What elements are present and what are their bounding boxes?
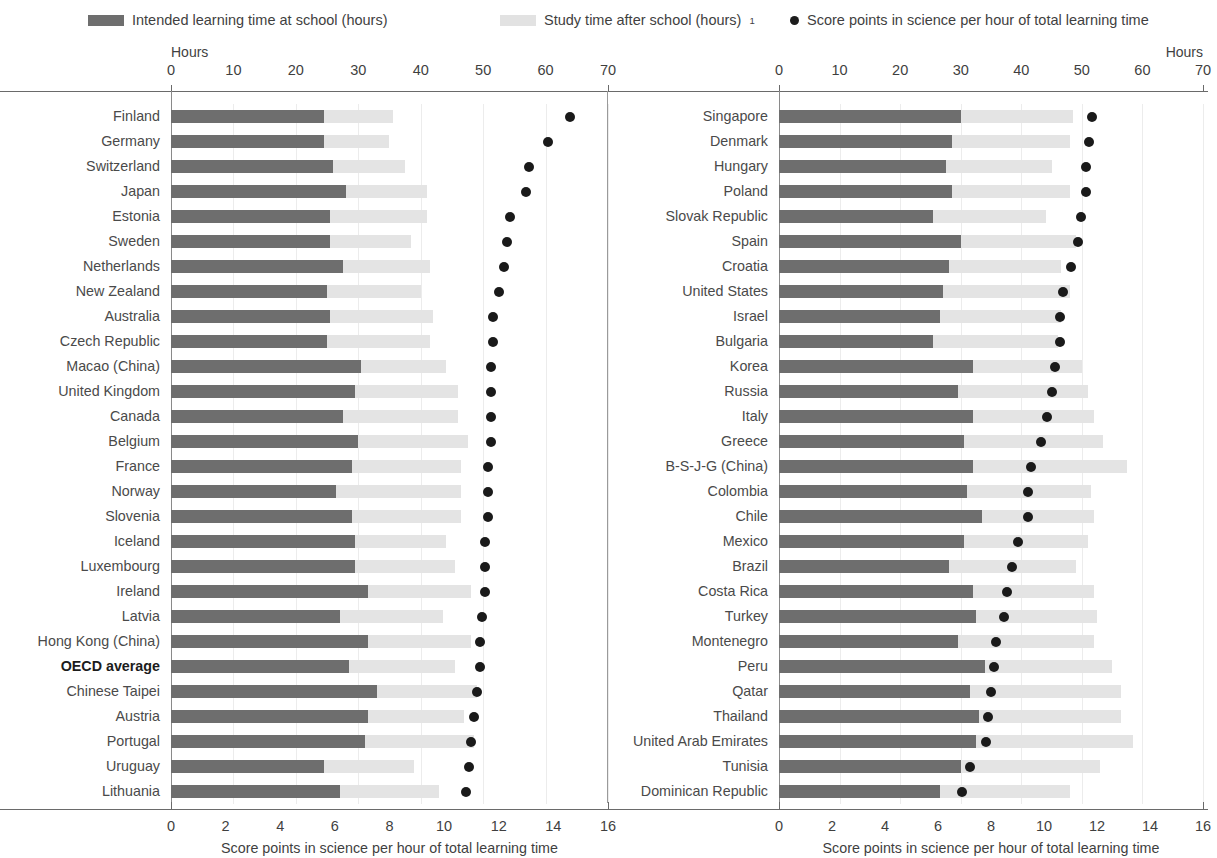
chart-row[interactable]: Macao (China) (0, 354, 608, 379)
chart-row[interactable]: Korea (608, 354, 1208, 379)
score-dot-marker (1026, 462, 1036, 472)
chart-row[interactable]: Colombia (608, 479, 1208, 504)
chart-row[interactable]: Thailand (608, 704, 1208, 729)
score-tick-label: 10 (1036, 818, 1052, 834)
score-dot-marker (499, 262, 509, 272)
chart-row[interactable]: Ireland (0, 579, 608, 604)
chart-row[interactable]: Dominican Republic (608, 779, 1208, 804)
chart-row[interactable]: Slovenia (0, 504, 608, 529)
chart-row[interactable]: Canada (0, 404, 608, 429)
score-dot-marker (543, 137, 553, 147)
chart-row[interactable]: Netherlands (0, 254, 608, 279)
category-label: Russia (724, 383, 768, 399)
category-label: France (116, 458, 161, 474)
chart-row[interactable]: Iceland (0, 529, 608, 554)
bar-study-time-after-school (365, 735, 474, 748)
category-label: Singapore (703, 108, 768, 124)
hours-tick-label: 0 (167, 62, 175, 78)
hours-tick-label: 10 (225, 62, 241, 78)
chart-row[interactable]: Norway (0, 479, 608, 504)
chart-row[interactable]: Russia (608, 379, 1208, 404)
chart-row[interactable]: Turkey (608, 604, 1208, 629)
chart-row[interactable]: Switzerland (0, 154, 608, 179)
bar-intended-learning-time (779, 310, 940, 323)
score-dot-marker (464, 762, 474, 772)
chart-row[interactable]: Peru (608, 654, 1208, 679)
chart-row[interactable]: United Kingdom (0, 379, 608, 404)
score-tick-label: 2 (222, 818, 230, 834)
chart-row[interactable]: Denmark (608, 129, 1208, 154)
panel-divider (607, 91, 608, 803)
bar-study-time-after-school (352, 510, 461, 523)
bar-intended-learning-time (779, 510, 982, 523)
bar-study-time-after-school (961, 110, 1073, 123)
chart-row[interactable]: Greece (608, 429, 1208, 454)
bar-intended-learning-time (171, 735, 365, 748)
chart-row[interactable]: OECD average (0, 654, 608, 679)
bar-study-time-after-school (330, 310, 433, 323)
chart-row[interactable]: Slovak Republic (608, 204, 1208, 229)
chart-row[interactable]: Singapore (608, 104, 1208, 129)
legend-item-intended-learning-time: Intended learning time at school (hours) (88, 12, 388, 28)
bar-study-time-after-school (964, 535, 1088, 548)
chart-row[interactable]: Bulgaria (608, 329, 1208, 354)
chart-row[interactable]: Chinese Taipei (0, 679, 608, 704)
bar-study-time-after-school (943, 285, 1070, 298)
chart-row[interactable]: Spain (608, 229, 1208, 254)
chart-row[interactable]: Croatia (608, 254, 1208, 279)
bar-intended-learning-time (779, 410, 973, 423)
bar-intended-learning-time (171, 535, 355, 548)
bar-intended-learning-time (779, 610, 976, 623)
chart-row[interactable]: Brazil (608, 554, 1208, 579)
legend-label: Study time after school (hours) (544, 12, 741, 28)
chart-row[interactable]: Finland (0, 104, 608, 129)
category-label: Dominican Republic (641, 783, 768, 799)
chart-row[interactable]: United States (608, 279, 1208, 304)
chart-row[interactable]: Luxembourg (0, 554, 608, 579)
chart-row[interactable]: Italy (608, 404, 1208, 429)
bar-study-time-after-school (343, 260, 430, 273)
hours-tick-mark (1203, 85, 1204, 92)
chart-row[interactable]: Czech Republic (0, 329, 608, 354)
category-label: Portugal (107, 733, 160, 749)
chart-row[interactable]: Costa Rica (608, 579, 1208, 604)
chart-row[interactable]: Qatar (608, 679, 1208, 704)
chart-row[interactable]: United Arab Emirates (608, 729, 1208, 754)
chart-row[interactable]: Uruguay (0, 754, 608, 779)
bar-intended-learning-time (779, 685, 970, 698)
bar-study-time-after-school (340, 610, 443, 623)
score-dot-marker (521, 187, 531, 197)
chart-row[interactable]: B-S-J-G (China) (608, 454, 1208, 479)
chart-row[interactable]: New Zealand (0, 279, 608, 304)
bar-intended-learning-time (779, 735, 976, 748)
chart-row[interactable]: Israel (608, 304, 1208, 329)
chart-row[interactable]: Germany (0, 129, 608, 154)
chart-row[interactable]: Lithuania (0, 779, 608, 804)
chart-row[interactable]: Hungary (608, 154, 1208, 179)
category-label: Lithuania (102, 783, 160, 799)
chart-row[interactable]: Latvia (0, 604, 608, 629)
chart-row[interactable]: France (0, 454, 608, 479)
chart-row[interactable]: Tunisia (608, 754, 1208, 779)
chart-row[interactable]: Australia (0, 304, 608, 329)
bar-study-time-after-school (940, 310, 1061, 323)
category-label: Hungary (714, 158, 768, 174)
chart-row[interactable]: Estonia (0, 204, 608, 229)
bar-intended-learning-time (779, 710, 979, 723)
chart-row[interactable]: Portugal (0, 729, 608, 754)
chart-row[interactable]: Mexico (608, 529, 1208, 554)
category-label: Slovenia (105, 508, 160, 524)
category-label: Mexico (723, 533, 768, 549)
category-label: Latvia (122, 608, 160, 624)
bottom-axis-rule (0, 809, 608, 810)
chart-row[interactable]: Chile (608, 504, 1208, 529)
bar-study-time-after-school (949, 260, 1061, 273)
chart-row[interactable]: Montenegro (608, 629, 1208, 654)
chart-row[interactable]: Sweden (0, 229, 608, 254)
chart-row[interactable]: Hong Kong (China) (0, 629, 608, 654)
chart-row[interactable]: Belgium (0, 429, 608, 454)
chart-row[interactable]: Japan (0, 179, 608, 204)
chart-row[interactable]: Poland (608, 179, 1208, 204)
bar-study-time-after-school (961, 235, 1076, 248)
chart-row[interactable]: Austria (0, 704, 608, 729)
